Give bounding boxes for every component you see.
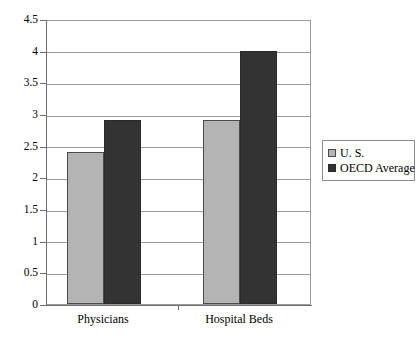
plot-area xyxy=(46,20,311,305)
y-axis-tick-label: 3 xyxy=(4,109,38,121)
legend-swatch-icon-oecd xyxy=(328,164,336,172)
bar-hospital-beds-us xyxy=(203,120,240,304)
y-axis-tick-label-wrap: 0.5 xyxy=(0,267,38,279)
y-axis-tick-label-wrap: 4 xyxy=(0,46,38,58)
y-axis-tick-label-wrap: 1 xyxy=(0,236,38,248)
y-axis-tick-label: 3.5 xyxy=(4,77,38,89)
y-axis-tick-label: 0 xyxy=(4,299,38,311)
bar-physicians-us xyxy=(67,152,104,304)
bar-hospital-beds-oecd xyxy=(240,51,277,304)
x-axis-category-label: Physicians xyxy=(33,312,173,326)
y-axis-tick-label: 4 xyxy=(4,46,38,58)
y-axis-tick-label: 0.5 xyxy=(4,267,38,279)
legend-entry-oecd: OECD Average xyxy=(328,161,410,175)
y-axis-tick-label: 4.5 xyxy=(4,14,38,26)
x-axis-category-separator-tick xyxy=(178,305,179,310)
y-axis-tick-label: 1.5 xyxy=(4,204,38,216)
y-axis-tick-label-wrap: 3.5 xyxy=(0,77,38,89)
y-axis-tick-label-wrap: 2.5 xyxy=(0,141,38,153)
y-axis-tick-label-wrap: 4.5 xyxy=(0,14,38,26)
x-axis-line xyxy=(46,305,312,306)
y-axis-tick-label-wrap: 0 xyxy=(0,299,38,311)
y-axis-tick-label: 2.5 xyxy=(4,141,38,153)
y-axis-tick-label: 1 xyxy=(4,236,38,248)
y-axis-tick-label-wrap: 2 xyxy=(0,172,38,184)
legend-label-oecd: OECD Average xyxy=(340,162,415,174)
legend-swatch-icon-us xyxy=(328,149,336,157)
x-axis-category-label: Hospital Beds xyxy=(169,312,309,326)
y-axis-tick-label-wrap: 1.5 xyxy=(0,204,38,216)
bar-physicians-oecd xyxy=(104,120,141,304)
chart-legend: U. S. OECD Average xyxy=(322,140,415,181)
bar-chart-figure: 00.511.522.533.544.5 PhysiciansHospital … xyxy=(0,0,420,342)
y-axis-tick-label: 2 xyxy=(4,172,38,184)
legend-label-us: U. S. xyxy=(340,147,364,159)
y-axis-line xyxy=(46,20,47,306)
y-axis-tick-label-wrap: 3 xyxy=(0,109,38,121)
legend-entry-us: U. S. xyxy=(328,146,410,160)
